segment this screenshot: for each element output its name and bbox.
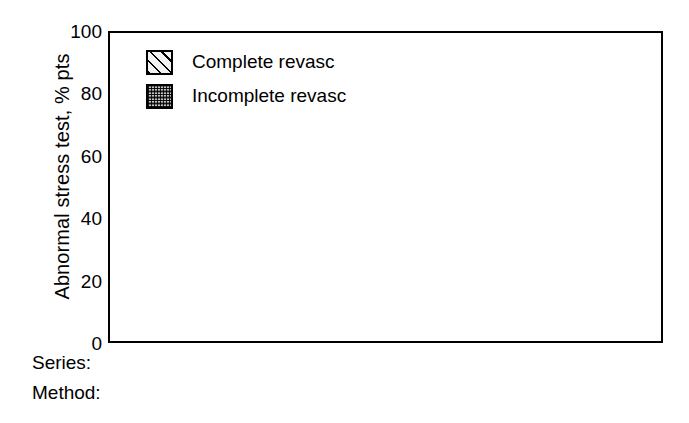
- legend-label-complete: Complete revasc: [192, 51, 335, 73]
- legend-item-complete: Complete revasc: [146, 45, 346, 79]
- y-tick-label: 0: [56, 334, 102, 353]
- method-row: Method:: [0, 382, 689, 408]
- plot-area: Complete revasc Incomplete revasc: [108, 31, 663, 343]
- legend: Complete revasc Incomplete revasc: [146, 45, 346, 113]
- y-tick-label: 80: [56, 84, 102, 103]
- method-row-title: Method:: [32, 382, 101, 404]
- legend-swatch-incomplete-icon: [146, 84, 173, 109]
- legend-swatch-complete-icon: [146, 50, 173, 75]
- legend-label-incomplete: Incomplete revasc: [192, 85, 346, 107]
- y-tick-label: 40: [56, 209, 102, 228]
- series-row-title: Series:: [32, 352, 91, 374]
- y-tick-label: 100: [56, 22, 102, 41]
- series-row: Series:: [0, 352, 689, 378]
- legend-item-incomplete: Incomplete revasc: [146, 79, 346, 113]
- y-tick-label: 20: [56, 272, 102, 291]
- chart-figure: Abnormal stress test, % pts 100 80 60 40…: [0, 0, 689, 423]
- y-tick-label: 60: [56, 147, 102, 166]
